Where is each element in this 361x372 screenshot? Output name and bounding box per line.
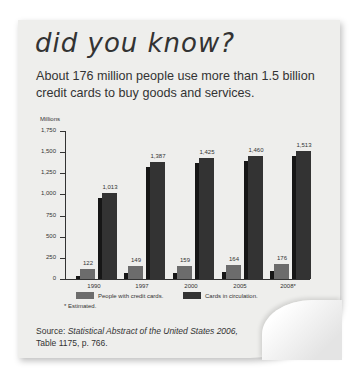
bar-3d-side bbox=[98, 198, 102, 279]
bar-3d-side bbox=[270, 271, 274, 279]
source-prefix: Source: bbox=[36, 326, 68, 336]
y-tick-mark bbox=[60, 258, 65, 259]
source-citation: Source: Statistical Abstract of the Unit… bbox=[36, 325, 238, 349]
bar-people bbox=[226, 265, 241, 279]
y-tick-mark bbox=[60, 131, 65, 132]
bar-3d-side bbox=[222, 272, 226, 279]
bar-3d-side bbox=[195, 163, 199, 279]
source-title: Statistical Abstract of the United State… bbox=[68, 326, 238, 336]
x-tick-label: 2005 bbox=[220, 283, 260, 289]
bar-3d-side bbox=[146, 167, 150, 279]
card-title: did you know? bbox=[35, 28, 235, 58]
legend-item-people: People with credit cards. bbox=[76, 292, 163, 299]
legend-item-cards: Cards in circulation. bbox=[183, 292, 258, 299]
bar-3d-side bbox=[124, 273, 128, 279]
y-tick-label: 1,000 bbox=[28, 190, 56, 196]
x-tick-label: 1997 bbox=[122, 283, 162, 289]
y-tick-mark bbox=[60, 152, 65, 153]
bar-value-label: 1,460 bbox=[241, 147, 271, 153]
bar-3d-side bbox=[244, 161, 248, 279]
bar-cards bbox=[248, 156, 263, 279]
y-tick-mark bbox=[60, 237, 65, 238]
y-axis-label: Millions bbox=[40, 116, 60, 122]
bar-value-label: 1,425 bbox=[192, 149, 222, 155]
legend-label-people: People with credit cards. bbox=[98, 293, 163, 299]
y-tick-label: 250 bbox=[28, 254, 56, 260]
x-tick-label: 2000 bbox=[171, 283, 211, 289]
y-tick-label: 750 bbox=[28, 212, 56, 218]
y-tick-mark bbox=[60, 173, 65, 174]
bar-value-label: 1,387 bbox=[143, 153, 173, 159]
card-subtitle: About 176 million people use more than 1… bbox=[36, 68, 336, 102]
bar-cards bbox=[296, 151, 311, 279]
y-tick-mark bbox=[60, 279, 65, 280]
bar-people bbox=[274, 264, 289, 279]
bar-3d-side bbox=[173, 273, 177, 279]
y-tick-label: 1,500 bbox=[28, 148, 56, 154]
y-tick-label: 500 bbox=[28, 233, 56, 239]
bar-cards bbox=[199, 158, 214, 279]
y-tick-label: 1,250 bbox=[28, 169, 56, 175]
y-tick-mark bbox=[60, 216, 65, 217]
bar-people bbox=[80, 269, 95, 279]
bar-cards bbox=[102, 193, 117, 279]
legend-swatch-cards bbox=[183, 292, 201, 299]
y-tick-mark bbox=[60, 194, 65, 195]
source-table: Table 1175, p. 766. bbox=[36, 338, 108, 348]
legend-swatch-people bbox=[76, 292, 94, 299]
bar-value-label: 1,013 bbox=[95, 184, 125, 190]
bar-3d-side bbox=[292, 156, 296, 279]
bar-value-label: 1,513 bbox=[289, 142, 319, 148]
bar-3d-side bbox=[76, 276, 80, 279]
bar-cards bbox=[150, 162, 165, 279]
bar-people bbox=[177, 266, 192, 279]
footnote: * Estimated. bbox=[64, 303, 96, 309]
legend-label-cards: Cards in circulation. bbox=[205, 293, 258, 299]
y-tick-label: 1,750 bbox=[28, 127, 56, 133]
y-axis bbox=[65, 131, 66, 280]
x-tick-label: 1990 bbox=[74, 283, 114, 289]
bar-people bbox=[128, 266, 143, 279]
y-tick-label: 0 bbox=[28, 275, 56, 281]
x-tick-label: 2008* bbox=[268, 283, 308, 289]
x-axis bbox=[60, 279, 310, 280]
